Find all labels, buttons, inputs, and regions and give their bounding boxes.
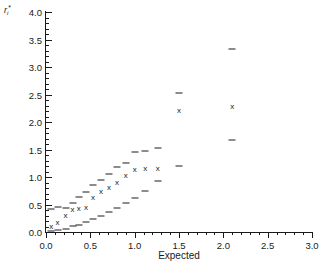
x-tick-major [312, 232, 313, 238]
errorbar-cap-lower [62, 228, 69, 229]
data-point-marker: x [64, 212, 68, 220]
errorbar-cap-lower [229, 139, 236, 140]
x-tick-minor [250, 232, 251, 235]
y-tick-major [46, 67, 52, 68]
y-tick-minor [46, 166, 49, 167]
y-tick-major [46, 122, 52, 123]
x-tick-minor [259, 232, 260, 235]
x-tick-minor [188, 232, 189, 235]
x-tick-minor [108, 232, 109, 235]
y-tick-minor [46, 45, 49, 46]
x-tick-minor [214, 232, 215, 235]
x-tick-minor [55, 232, 56, 235]
y-tick-minor [46, 100, 49, 101]
errorbar-cap-lower [105, 211, 112, 212]
data-point-marker: x [115, 179, 119, 187]
chart-figure: ri* 0.00.51.01.52.02.53.03.54.00.00.51.0… [0, 0, 326, 270]
x-tick-minor [232, 232, 233, 235]
y-tick-label: 1.5 [29, 144, 42, 155]
data-point-marker: x [133, 166, 137, 174]
y-tick-label: 1.0 [29, 172, 42, 183]
errorbar-cap-lower [142, 190, 149, 191]
data-point-marker: x [99, 188, 103, 196]
errorbar-cap-lower [54, 230, 61, 231]
y-tick-minor [46, 34, 49, 35]
errorbar-cap-upper [105, 173, 112, 174]
x-tick-minor [170, 232, 171, 235]
x-axis-title: Expected [46, 250, 312, 261]
x-tick-minor [117, 232, 118, 235]
data-point-marker: x [71, 206, 75, 214]
y-tick-label: 0.5 [29, 199, 42, 210]
y-tick-minor [46, 172, 49, 173]
y-axis-label-superscript: * [8, 4, 11, 11]
x-tick-major [46, 232, 47, 238]
y-tick-major [46, 40, 52, 41]
x-tick-minor [99, 232, 100, 235]
y-tick-major [46, 12, 52, 13]
y-tick-label: 2.0 [29, 117, 42, 128]
errorbar-cap-lower [113, 207, 120, 208]
y-tick-minor [46, 111, 49, 112]
errorbar-cap-upper [176, 93, 183, 94]
y-tick-minor [46, 56, 49, 57]
y-tick-minor [46, 144, 49, 145]
y-tick-minor [46, 155, 49, 156]
errorbar-cap-upper [97, 180, 104, 181]
errorbar-cap-upper [48, 208, 55, 209]
data-point-marker: x [143, 165, 147, 173]
x-tick-minor [81, 232, 82, 235]
errorbar-cap-lower [154, 181, 161, 182]
errorbar-cap-upper [82, 192, 89, 193]
y-tick-minor [46, 117, 49, 118]
y-tick-major [46, 150, 52, 151]
errorbar-cap-upper [113, 166, 120, 167]
data-point-marker: x [230, 103, 234, 111]
y-tick-minor [46, 161, 49, 162]
x-tick-minor [126, 232, 127, 235]
y-tick-major [46, 177, 52, 178]
data-point-marker: x [156, 165, 160, 173]
y-tick-minor [46, 183, 49, 184]
errorbar-cap-lower [89, 218, 96, 219]
y-tick-minor [46, 51, 49, 52]
errorbar-cap-lower [176, 166, 183, 167]
x-tick-major [90, 232, 91, 238]
x-tick-minor [73, 232, 74, 235]
y-tick-minor [46, 84, 49, 85]
y-tick-label: 3.0 [29, 62, 42, 73]
x-tick-minor [152, 232, 153, 235]
y-tick-minor [46, 194, 49, 195]
data-point-marker: x [49, 223, 53, 231]
y-tick-label: 0.0 [29, 227, 42, 238]
x-tick-minor [285, 232, 286, 235]
y-tick-major [46, 95, 52, 96]
y-tick-minor [46, 78, 49, 79]
errorbar-cap-lower [75, 225, 82, 226]
errorbar-cap-lower [131, 197, 138, 198]
data-point-marker: x [107, 184, 111, 192]
x-tick-minor [294, 232, 295, 235]
y-tick-minor [46, 210, 49, 211]
errorbar-cap-lower [122, 203, 129, 204]
y-tick-minor [46, 29, 49, 30]
data-point-marker: x [177, 107, 181, 115]
y-tick-major [46, 205, 52, 206]
y-tick-minor [46, 216, 49, 217]
x-tick-minor [206, 232, 207, 235]
data-point-marker: x [56, 219, 60, 227]
x-tick-minor [161, 232, 162, 235]
data-point-marker: x [124, 172, 128, 180]
y-tick-minor [46, 18, 49, 19]
errorbar-cap-upper [154, 148, 161, 149]
x-tick-minor [277, 232, 278, 235]
plot-area: 0.00.51.01.52.02.53.03.54.00.00.51.01.52… [46, 12, 312, 232]
y-tick-minor [46, 106, 49, 107]
y-tick-minor [46, 133, 49, 134]
errorbar-cap-upper [89, 184, 96, 185]
y-tick-minor [46, 128, 49, 129]
y-tick-label: 2.5 [29, 89, 42, 100]
x-tick-major [223, 232, 224, 238]
errorbar-cap-lower [97, 215, 104, 216]
errorbar-cap-lower [82, 221, 89, 222]
